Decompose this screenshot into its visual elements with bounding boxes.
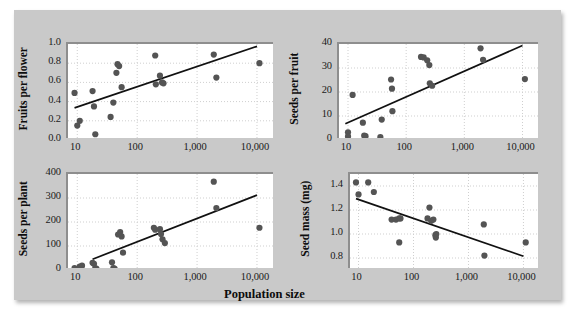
x-tick-label: 1,000	[173, 142, 217, 153]
y-tick-label: 0.4	[27, 95, 61, 106]
plot-area-seed-mass	[348, 172, 538, 268]
scatter-plot-seeds-per-fruit	[339, 44, 538, 138]
y-tick-label: 200	[27, 215, 61, 226]
x-tick-label: 10	[53, 142, 97, 153]
x-tick-label: 10,000	[233, 272, 277, 283]
x-tick-label: 1,000	[440, 142, 484, 153]
x-tick-label: 100	[113, 272, 157, 283]
x-tick-label: 100	[382, 142, 426, 153]
y-tick-label: 20	[298, 85, 332, 96]
y-tick-label: 100	[27, 239, 61, 250]
y-tick-label: 1.0	[309, 227, 343, 238]
y-tick-label: 40	[298, 37, 332, 48]
y-tick-label: 10	[298, 109, 332, 120]
scatter-plot-seed-mass	[350, 174, 538, 268]
plot-area-seeds-per-fruit	[337, 42, 538, 138]
y-tick-label: 0.8	[27, 56, 61, 67]
x-axis-title: Population size	[224, 288, 305, 301]
x-tick-label: 10,000	[499, 272, 543, 283]
x-tick-label: 10,000	[498, 142, 542, 153]
y-tick-label: 300	[27, 191, 61, 202]
y-tick-label: 0.6	[27, 75, 61, 86]
y-tick-label: 1.4	[309, 179, 343, 190]
x-tick-label: 100	[389, 272, 433, 283]
x-tick-label: 1,000	[173, 272, 217, 283]
x-tick-label: 10,000	[233, 142, 277, 153]
x-tick-label: 100	[113, 142, 157, 153]
plot-area-fruits-per-flower	[66, 42, 273, 138]
y-tick-label: 1.0	[27, 37, 61, 48]
scatter-plot-fruits-per-flower	[68, 44, 273, 138]
x-tick-label: 10	[53, 272, 97, 283]
scatter-plot-seeds-per-plant	[68, 174, 273, 268]
y-tick-label: 400	[27, 167, 61, 178]
y-tick-label: 0.8	[309, 251, 343, 262]
y-tick-label: 0.2	[27, 114, 61, 125]
x-tick-label: 10	[335, 272, 379, 283]
x-tick-label: 1,000	[444, 272, 488, 283]
y-tick-label: 30	[298, 61, 332, 72]
figure-root: Fruits per flower Seeds per fruit Seeds …	[0, 0, 575, 320]
plot-area-seeds-per-plant	[66, 172, 273, 268]
x-tick-label: 10	[324, 142, 368, 153]
y-tick-label: 1.2	[309, 203, 343, 214]
